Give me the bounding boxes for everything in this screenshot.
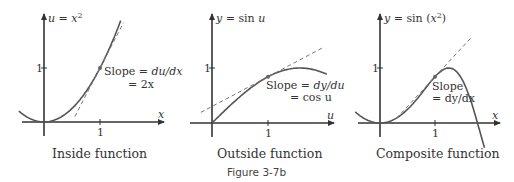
y-tick-label: 1 [204,62,211,75]
curve-y-equals-sin-x-squared [355,68,484,148]
caption: Outside function [217,146,322,161]
slope-value: = cos u [290,91,332,104]
slope-value: = 2x [128,78,155,91]
panel-inside: 1 1 x u = x2 Slope = du/dx = 2x Inside f… [19,11,184,161]
equation-label: u = x2 [48,11,83,25]
x-tick-label: 1 [265,127,272,140]
tangent-point [98,66,102,70]
u-axis-label: u [327,109,334,122]
equation-label: y = sin u [215,12,265,25]
x-tick-label: 1 [432,127,439,140]
y-tick-label: 1 [372,62,379,75]
panel-composite: 1 1 x y = sin (x2) Slope = dy/dx Composi… [355,11,500,161]
y-tick-label: 1 [36,62,43,75]
caption: Composite function [376,146,500,161]
tangent-point [433,75,437,79]
caption: Inside function [52,146,147,161]
slope-value: = dy/dx [432,92,476,105]
x-axis-label: x [492,109,499,122]
x-axis-label: x [158,108,165,121]
x-tick-label: 1 [97,126,104,139]
slope-label: Slope = du/dx [104,65,183,78]
equation-label: y = sin (x2) [383,11,446,25]
figure-canvas: 1 1 x u = x2 Slope = du/dx = 2x Inside f… [0,0,514,182]
panel-outside: 1 1 u y = sin u Slope = dy/du = cos u Ou… [190,12,345,178]
figure-label: Figure 3-7b [227,166,287,178]
